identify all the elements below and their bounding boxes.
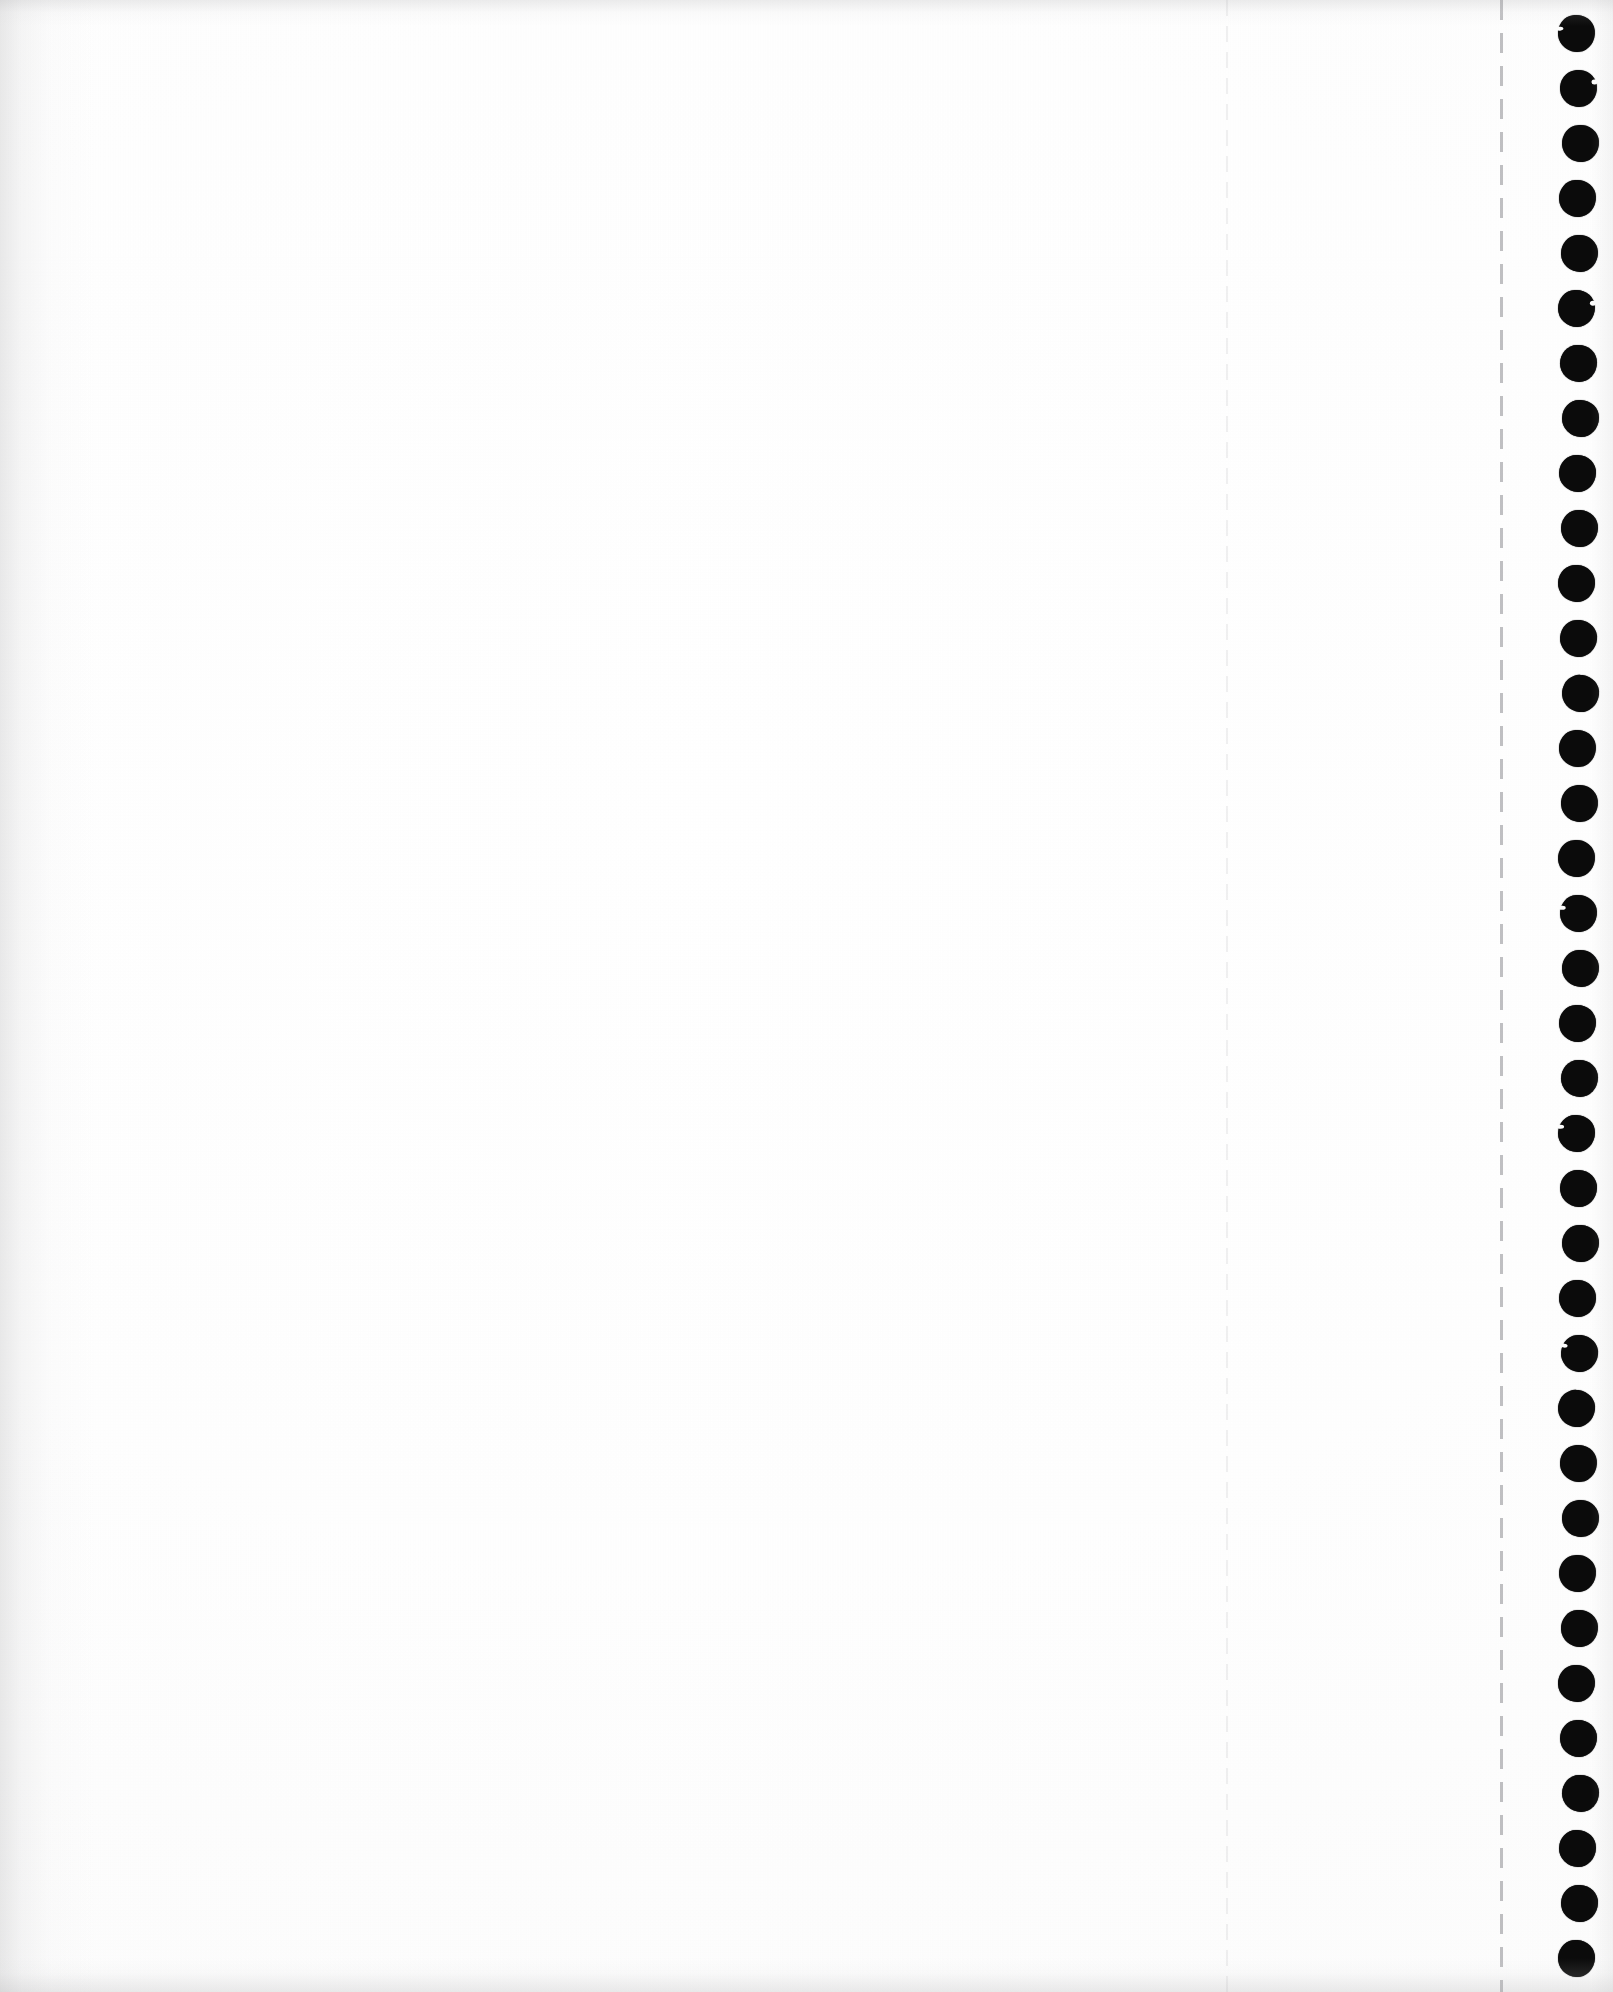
scanned-page [0, 0, 1613, 1992]
paper-sheet [0, 0, 1613, 1992]
